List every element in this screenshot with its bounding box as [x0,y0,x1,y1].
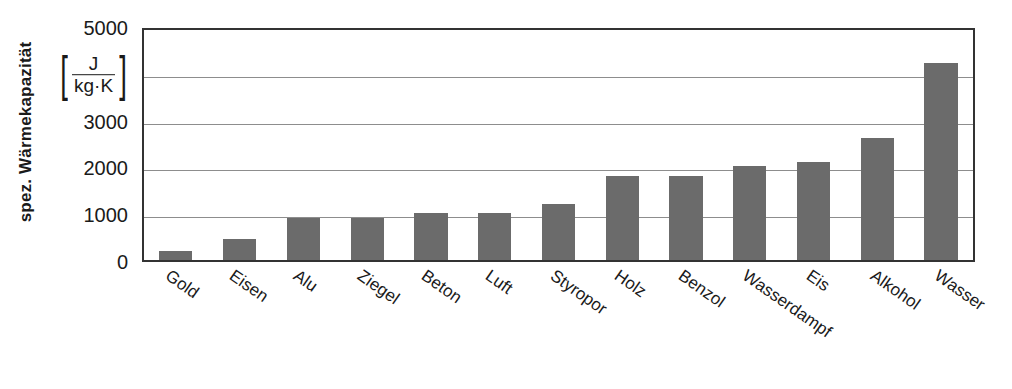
unit-numerator: J [85,54,103,74]
unit-open-bracket: [ [60,54,68,95]
bar[interactable] [606,176,639,260]
y-tick-label: 0 [117,252,128,272]
x-label-slot: Alkohol [847,264,911,384]
bar-slot [782,30,846,260]
bar-slot [909,30,973,260]
bar[interactable] [542,204,575,260]
bar[interactable] [287,218,320,260]
bar-slot [718,30,782,260]
bar[interactable] [414,213,447,260]
x-label-slot: Alu [270,264,334,384]
bar-slot [208,30,272,260]
bar-slot [272,30,336,260]
x-tick-label: Eis [803,267,832,294]
x-label-slot: Wasser [911,264,975,384]
bar-series [144,30,973,260]
bar[interactable] [733,166,766,260]
plot-area [142,28,975,262]
bar[interactable] [861,138,894,260]
y-tick-label: 5000 [84,18,129,38]
bar[interactable] [669,176,702,260]
bar[interactable] [159,251,192,260]
y-tick-label: 3000 [84,112,129,132]
x-tick-label: Alu [291,267,321,295]
x-tick-label: Luft [483,267,516,297]
y-tick-label: 2000 [84,158,129,178]
x-tick-label: Beton [419,267,465,306]
bar[interactable] [478,213,511,260]
bar-slot [654,30,718,260]
x-label-slot: Holz [591,264,655,384]
x-label-slot: Wasserdampf [719,264,783,384]
x-label-slot: Gold [142,264,206,384]
bar[interactable] [924,63,957,260]
x-tick-label: Ziegel [355,267,403,307]
y-axis-unit: [Jkg·K] [57,54,130,96]
y-tick-label: 1000 [84,205,129,225]
unit-denominator: kg·K [72,76,115,96]
bar-chart: spez. Wärmekapazität 0100020003000[Jkg·K… [0,0,1012,389]
bar[interactable] [223,239,256,260]
bar[interactable] [797,162,830,260]
x-tick-label: Holz [611,267,649,300]
unit-close-bracket: ] [119,54,127,95]
x-tick-label: Eisen [227,267,272,305]
x-tick-label: Gold [163,267,202,302]
bar-slot [144,30,208,260]
x-axis-labels: GoldEisenAluZiegelBetonLuftStyroporHolzB… [142,264,975,384]
bar-slot [335,30,399,260]
bar-slot [399,30,463,260]
bar-slot [590,30,654,260]
x-label-slot: Styropor [526,264,590,384]
x-label-slot: Luft [462,264,526,384]
y-axis-ticks: 0100020003000[Jkg·K]5000 [0,0,134,389]
x-label-slot: Benzol [655,264,719,384]
x-label-slot: Eisen [206,264,270,384]
x-label-slot: Ziegel [334,264,398,384]
x-label-slot: Beton [398,264,462,384]
bar[interactable] [351,218,384,260]
bar-slot [463,30,527,260]
bar-slot [845,30,909,260]
x-label-slot: Eis [783,264,847,384]
bar-slot [527,30,591,260]
x-tick-label: Wasser [932,267,988,314]
